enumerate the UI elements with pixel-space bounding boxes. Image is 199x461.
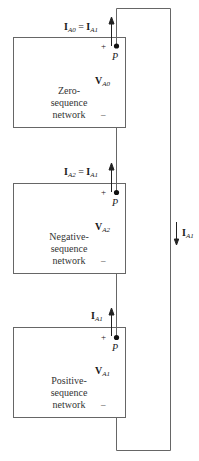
node-p-label-zero: P: [112, 52, 118, 62]
current-subscript: A1: [95, 315, 103, 323]
current-label-zero: IA0 = IA1: [64, 22, 98, 34]
arrowhead-icon: [109, 17, 114, 24]
network-name-line: Negative-: [34, 231, 104, 243]
network-name-negative: Negative- sequence network: [34, 231, 104, 267]
minus-terminal-zero: –: [101, 110, 106, 119]
plus-terminal-zero: +: [101, 42, 106, 51]
arrowhead-icon: [174, 239, 178, 245]
network-name-line: Positive-: [34, 375, 104, 387]
current-subscript: A1: [186, 232, 194, 240]
network-name-line: Zero-: [34, 85, 104, 97]
equals-sign: =: [76, 21, 87, 32]
network-name-line: network: [34, 255, 104, 267]
node-p-label-positive: P: [112, 343, 118, 353]
network-name-line: network: [34, 109, 104, 121]
plus-terminal-positive: +: [101, 333, 106, 342]
current-subscript: A1: [90, 171, 98, 179]
minus-terminal-negative: –: [101, 256, 106, 265]
arrowhead-icon: [109, 308, 114, 315]
current-subscript: A2: [68, 171, 76, 179]
current-subscript: A1: [90, 26, 98, 34]
network-name-zero: Zero- sequence network: [34, 85, 104, 121]
current-subscript: A0: [68, 26, 76, 34]
network-name-line: sequence: [34, 243, 104, 255]
network-name-line: sequence: [34, 387, 104, 399]
loop-current-label: IA1: [182, 228, 194, 240]
plus-terminal-negative: +: [101, 188, 106, 197]
minus-terminal-positive: –: [101, 400, 106, 409]
network-name-line: network: [34, 399, 104, 411]
arrowhead-icon: [109, 163, 114, 170]
node-p-dot-zero: [114, 43, 119, 48]
series-loop-wire: [117, 9, 171, 451]
network-name-positive: Positive- sequence network: [34, 375, 104, 411]
node-p-label-negative: P: [112, 198, 118, 208]
current-label-negative: IA2 = IA1: [64, 167, 98, 179]
equals-sign: =: [76, 166, 87, 177]
node-p-dot-positive: [114, 335, 119, 340]
network-name-line: sequence: [34, 97, 104, 109]
node-p-dot-negative: [114, 190, 119, 195]
current-label-positive: IA1: [91, 311, 103, 323]
